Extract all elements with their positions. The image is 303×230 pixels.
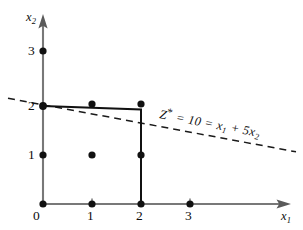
y-tick-label-1: 1 [28, 148, 35, 162]
x-tick-label-0: 0 [33, 209, 40, 223]
x-tick-label-1: 1 [87, 209, 94, 223]
y-axis-label: x2 [26, 11, 36, 24]
x-axis-label-base: x [281, 209, 287, 223]
lattice-point-1-2 [88, 100, 95, 107]
y-tick-label-3: 3 [28, 44, 35, 58]
lattice-point-0-3 [39, 47, 46, 54]
x-tick-label-2: 2 [136, 209, 143, 223]
lattice-point-2-0 [137, 200, 144, 207]
lattice-point-0-0 [39, 200, 46, 207]
y-axis-label-base: x [26, 10, 32, 24]
y-tick-label-2: 2 [28, 99, 35, 113]
x-axis-label: x1 [281, 210, 291, 223]
y-axis-label-subscript: 2 [32, 16, 36, 26]
plot-canvas [0, 0, 303, 230]
x-tick-label-3: 3 [185, 209, 192, 223]
lattice-point-0-2 [39, 102, 47, 110]
x-axis-label-subscript: 1 [287, 215, 291, 225]
lattice-point-1-0 [88, 200, 95, 207]
integer-programming-figure: 0 1 2 3 1 2 3 x2 x1 Z* = 10 = x1 + 5x2 [0, 0, 303, 230]
lattice-point-3-0 [186, 200, 193, 207]
lattice-point-1-1 [88, 151, 95, 158]
lattice-points-group [39, 47, 194, 207]
lattice-point-0-1 [39, 151, 46, 158]
lattice-point-2-2 [137, 100, 144, 107]
lattice-point-2-1 [137, 151, 144, 158]
